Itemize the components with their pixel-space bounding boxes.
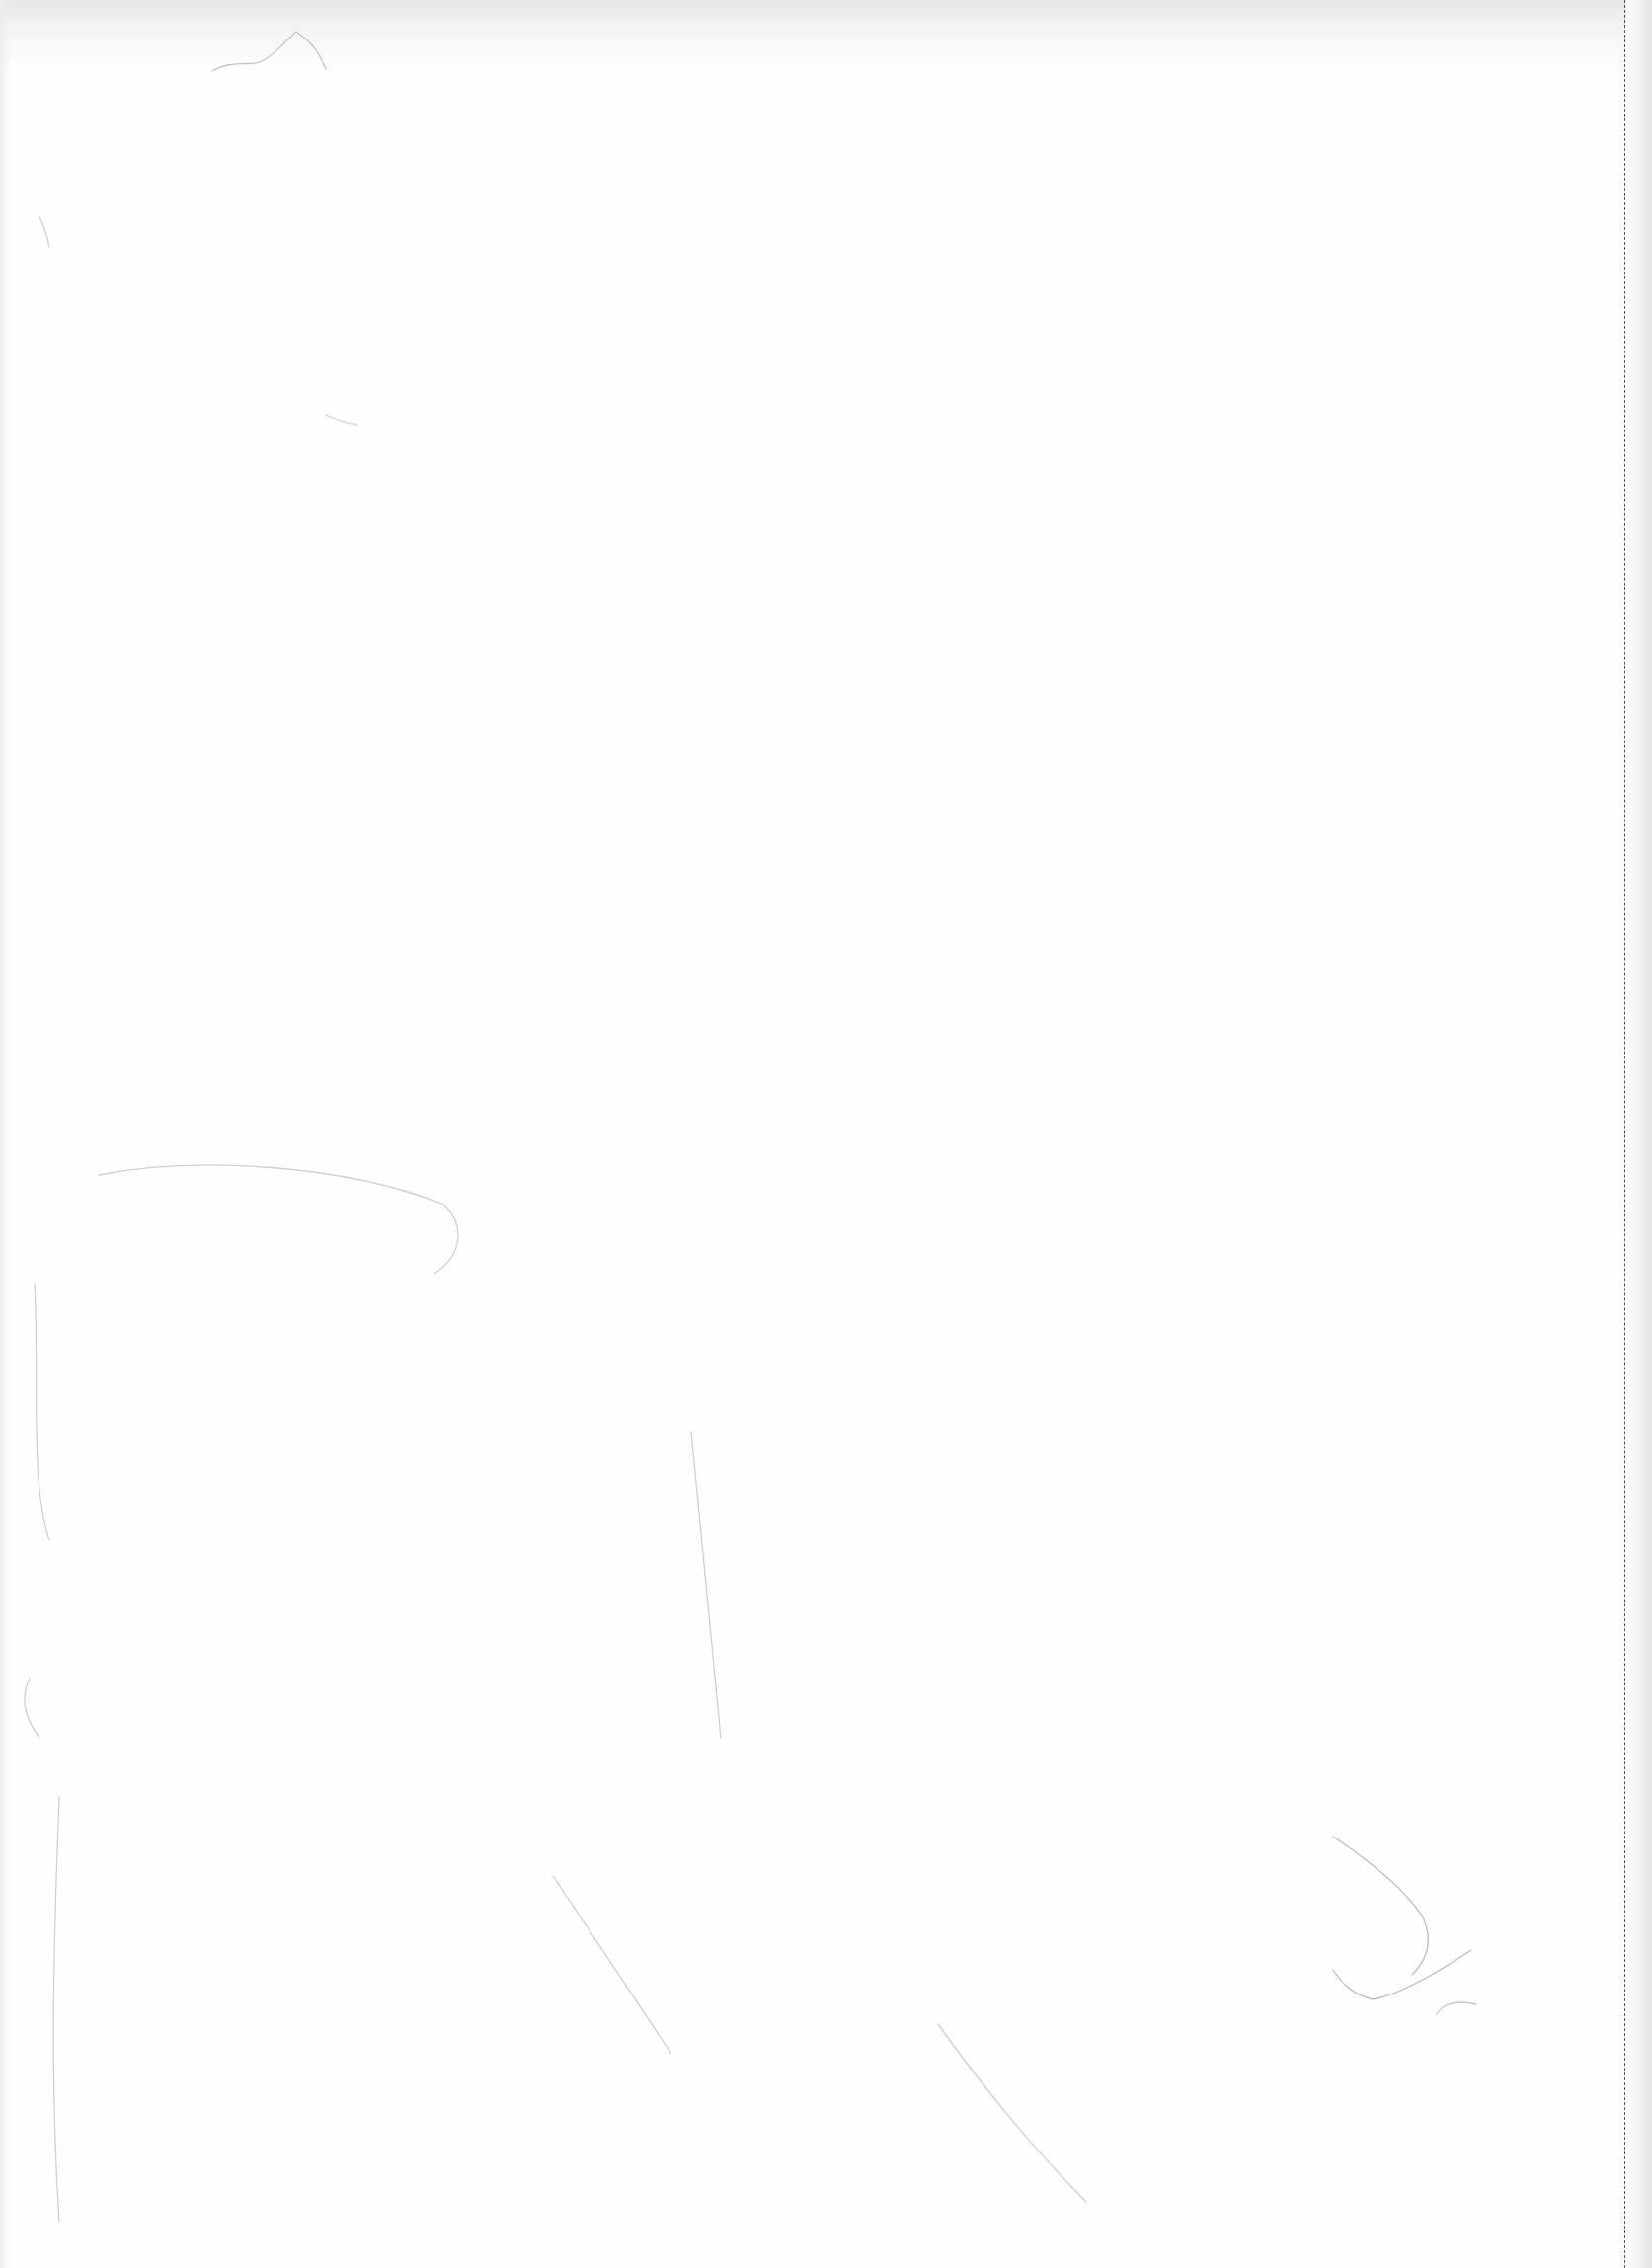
faint-bleed-through-strokes [0, 0, 1652, 2268]
paper-sheet [0, 0, 1652, 2268]
